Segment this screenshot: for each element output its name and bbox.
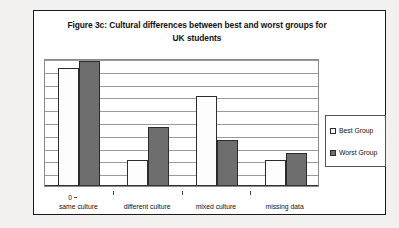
chart-title-line-1: Figure 3c: Cultural differences between … [67,20,326,30]
chart-container: Figure 3c: Cultural differences between … [33,10,386,215]
x-axis-line [45,185,318,187]
bar-best-group-missing-data [265,160,286,186]
plot-area [44,59,319,187]
legend-swatch-icon [330,150,336,156]
legend-item-best-group: Best Group [330,127,373,134]
x-axis-labels: same culturedifferent culturemixed cultu… [44,191,319,211]
legend-item-worst-group: Worst Group [330,149,377,156]
legend-label: Worst Group [339,149,377,156]
bar-best-group-different-culture [127,160,148,186]
chart-title: Figure 3c: Cultural differences between … [52,19,342,44]
x-axis-tick-label: same culture [59,203,98,210]
bar-worst-group-different-culture [148,127,169,186]
chart-legend: Best GroupWorst Group [325,115,386,167]
bar-worst-group-mixed-culture [217,140,238,186]
x-axis-tick-label: mixed culture [196,203,236,210]
bar-worst-group-same-culture [79,61,100,186]
x-axis-tick-mark [182,191,183,195]
x-axis-tick-mark [113,191,114,195]
legend-swatch-icon [330,128,336,134]
x-axis-tick-label: different culture [124,203,171,210]
legend-label: Best Group [339,127,373,134]
chart-title-line-2: UK students [173,33,222,43]
bar-worst-group-missing-data [286,153,307,186]
bar-best-group-same-culture [58,68,79,186]
x-axis-tick-label: missing data [266,203,304,210]
x-axis-tick-mark [250,191,251,195]
bar-best-group-mixed-culture [196,96,217,186]
